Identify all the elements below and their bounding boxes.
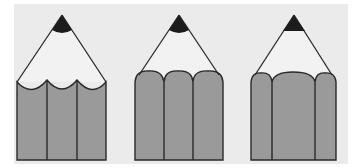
pencil-body xyxy=(251,72,336,160)
pencil-diagram xyxy=(0,0,356,167)
pencil-illustration xyxy=(0,0,356,167)
pencil-body xyxy=(135,71,223,160)
pencil-body xyxy=(17,80,106,160)
